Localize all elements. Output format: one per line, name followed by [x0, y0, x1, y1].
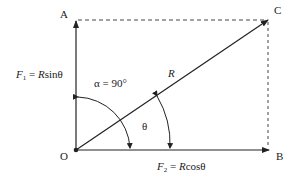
point-label-c: C [274, 4, 281, 16]
f1-label: F1 = Rsinθ [15, 68, 63, 82]
point-label-a: A [60, 8, 68, 20]
theta-label: θ [142, 120, 147, 132]
f2-equals: = [167, 160, 179, 172]
alpha-arc [78, 97, 130, 148]
alpha-label: α = 90° [94, 77, 127, 89]
point-label-b: B [276, 150, 283, 162]
vector-resolution-diagram: A C O B R α = 90° θ F1 = Rsinθ F2 = Rcos… [0, 0, 296, 184]
f1-equals: = [26, 68, 38, 80]
origin-dot [74, 148, 79, 153]
f2-label: F2 = Rcosθ [156, 160, 206, 174]
point-label-o: O [60, 150, 68, 162]
f2-expr-fn: cosθ [186, 160, 206, 172]
resultant-label: R [167, 67, 175, 79]
theta-arc [157, 96, 170, 148]
f1-expr-fn: sinθ [45, 68, 63, 80]
